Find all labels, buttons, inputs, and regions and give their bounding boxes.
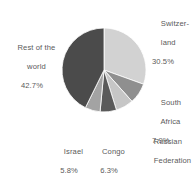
slice-value-congo: 6.3% <box>92 166 126 173</box>
pie-slices-group <box>62 28 146 112</box>
slice-label-south-africa-line2: Africa <box>160 117 180 126</box>
slice-label-congo-line1: Congo <box>102 147 125 156</box>
slice-label-russian-federation-line1: Russian <box>154 137 182 146</box>
slice-value-israel: 5.8% <box>52 166 86 173</box>
slice-label-russian-federation-line2: Federation <box>154 156 191 165</box>
slice-label-russian-federation: Russian Federation 6.8% <box>145 128 191 173</box>
slice-value-rest-of-the-world: 42.7% <box>4 81 60 90</box>
slice-value-switzerland: 30.5% <box>152 57 189 66</box>
slice-label-israel: Israel 5.8% <box>52 138 86 173</box>
slice-label-switzerland-line2: land <box>161 38 176 47</box>
slice-label-congo: Congo 6.3% <box>92 138 126 173</box>
slice-label-rest-of-the-world: Rest of the world 42.7% <box>4 34 60 109</box>
slice-label-switzerland-line1: Switzer- <box>161 19 189 28</box>
slice-label-israel-line1: Israel <box>64 147 83 156</box>
slice-label-south-africa-line1: South <box>161 98 181 107</box>
slice-label-rest-of-the-world-line2: world <box>27 62 46 71</box>
slice-label-rest-of-the-world-line1: Rest of the <box>18 43 56 52</box>
pie-chart-figure: Switzer- land 30.5% South Africa 7.9% Ru… <box>0 0 196 173</box>
slice-label-switzerland: Switzer- land 30.5% <box>152 10 189 85</box>
